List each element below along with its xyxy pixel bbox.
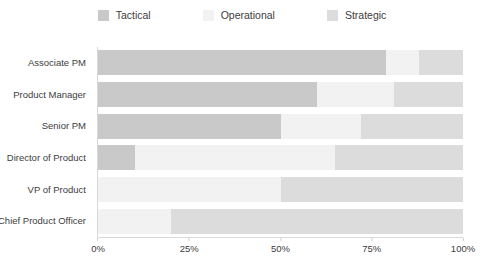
bar-segment-strategic[interactable] xyxy=(419,50,463,75)
x-axis-tick: 50% xyxy=(271,238,290,254)
bar-segment-strategic[interactable] xyxy=(171,209,463,234)
bar-row xyxy=(98,110,463,142)
x-axis-tick-mark xyxy=(280,238,281,241)
y-axis-label-cell: Director of Product xyxy=(0,142,92,174)
x-axis-tick-label: 100% xyxy=(451,244,475,254)
x-axis-tick-label: 75% xyxy=(362,244,381,254)
stacked-bar-chart: TacticalOperationalStrategic Associate P… xyxy=(0,0,484,269)
bar-row xyxy=(98,47,463,79)
bar-segment-operational[interactable] xyxy=(98,177,281,202)
bar-segment-operational[interactable] xyxy=(386,50,419,75)
y-axis-label: VP of Product xyxy=(28,185,86,195)
legend-item-operational[interactable]: Operational xyxy=(203,10,275,21)
y-axis-label: Associate PM xyxy=(28,58,86,68)
y-axis-label: Product Manager xyxy=(13,90,86,100)
stacked-bar[interactable] xyxy=(98,82,463,107)
x-axis-tick-mark xyxy=(189,238,190,241)
legend-swatch-strategic xyxy=(327,10,338,21)
bar-segment-operational[interactable] xyxy=(98,209,171,234)
x-axis-tick: 75% xyxy=(362,238,381,254)
bar-segment-operational[interactable] xyxy=(317,82,394,107)
bar-segment-strategic[interactable] xyxy=(281,177,464,202)
bar-segment-operational[interactable] xyxy=(135,145,336,170)
stacked-bar[interactable] xyxy=(98,145,463,170)
x-axis-tick-label: 25% xyxy=(180,244,199,254)
legend-label: Tactical xyxy=(116,10,151,21)
stacked-bar[interactable] xyxy=(98,50,463,75)
stacked-bar[interactable] xyxy=(98,177,463,202)
x-axis-ticks: 0%25%50%75%100% xyxy=(98,238,463,254)
stacked-bar[interactable] xyxy=(98,209,463,234)
legend-item-tactical[interactable]: Tactical xyxy=(98,10,151,21)
bar-row xyxy=(98,79,463,111)
legend-label: Strategic xyxy=(345,10,386,21)
bar-row xyxy=(98,205,463,237)
y-axis-label-cell: Associate PM xyxy=(0,47,92,79)
y-axis-label: Chief Product Officer xyxy=(0,216,86,226)
legend-swatch-operational xyxy=(203,10,214,21)
bar-segment-strategic[interactable] xyxy=(335,145,463,170)
x-axis-tick-label: 50% xyxy=(271,244,290,254)
bar-segment-tactical[interactable] xyxy=(98,82,317,107)
bar-row xyxy=(98,142,463,174)
bar-segment-tactical[interactable] xyxy=(98,114,281,139)
bar-segment-strategic[interactable] xyxy=(361,114,463,139)
y-axis-label-cell: Chief Product Officer xyxy=(0,205,92,237)
legend-swatch-tactical xyxy=(98,10,109,21)
x-axis-tick-label: 0% xyxy=(91,244,105,254)
plot-area xyxy=(98,47,463,237)
stacked-bar[interactable] xyxy=(98,114,463,139)
bar-segment-tactical[interactable] xyxy=(98,50,386,75)
x-axis-tick: 25% xyxy=(180,238,199,254)
x-axis-tick-mark xyxy=(463,238,464,241)
x-axis-tick-mark xyxy=(97,238,98,241)
x-axis-tick-mark xyxy=(371,238,372,241)
y-axis-label-cell: VP of Product xyxy=(0,174,92,206)
bar-segment-operational[interactable] xyxy=(281,114,361,139)
legend-label: Operational xyxy=(221,10,275,21)
x-axis-tick: 0% xyxy=(91,238,105,254)
bar-segment-strategic[interactable] xyxy=(394,82,463,107)
legend-item-strategic[interactable]: Strategic xyxy=(327,10,386,21)
chart-legend: TacticalOperationalStrategic xyxy=(0,10,484,21)
y-axis-label: Senior PM xyxy=(42,121,86,131)
x-axis-tick: 100% xyxy=(451,238,475,254)
y-axis-label: Director of Product xyxy=(7,153,86,163)
bar-row xyxy=(98,174,463,206)
bar-rows xyxy=(98,47,463,237)
y-axis-label-cell: Senior PM xyxy=(0,110,92,142)
bar-segment-tactical[interactable] xyxy=(98,145,135,170)
y-axis-label-cell: Product Manager xyxy=(0,79,92,111)
y-axis-labels: Associate PMProduct ManagerSenior PMDire… xyxy=(0,47,92,237)
